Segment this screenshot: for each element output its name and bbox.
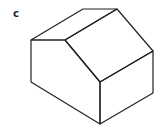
right-wall-face — [100, 51, 153, 124]
roof-right-face — [65, 9, 153, 82]
left-wall-face — [31, 40, 100, 124]
house-prism-drawing — [0, 0, 160, 128]
roof-left-face — [31, 9, 117, 40]
